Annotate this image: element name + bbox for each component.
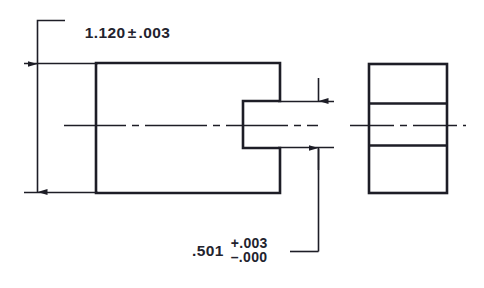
plus-minus-icon: ± [126,24,139,42]
slot-width-tolerance-upper: +.003 [231,236,268,250]
slot-width-dimension-text: .501 +.003 –.000 [192,236,268,265]
side-view-outline [369,64,447,193]
slot-width-tolerance-stack: +.003 –.000 [231,236,268,265]
slot-width-tolerance-lower: –.000 [231,250,268,264]
engineering-drawing: 1.120±.003 .501 +.003 –.000 [0,0,484,288]
leader-line-height [38,21,66,64]
overall-height-tolerance: .003 [139,24,171,41]
overall-height-nominal: 1.120 [85,24,126,41]
front-view-outline [96,63,280,193]
slot-width-nominal: .501 [192,243,224,259]
overall-height-dimension-text: 1.120±.003 [66,6,170,60]
